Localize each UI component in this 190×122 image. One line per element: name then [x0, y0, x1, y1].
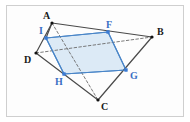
cross-section-polygon	[46, 32, 126, 74]
vertex-dot-C	[96, 98, 99, 101]
vertex-dot-B	[150, 35, 153, 38]
vertex-label-I: I	[39, 26, 43, 36]
vertex-dot-D	[34, 51, 37, 54]
vertex-label-G: G	[130, 71, 138, 81]
vertex-label-B: B	[157, 27, 164, 37]
vertex-dot-F	[106, 30, 109, 33]
vertex-label-A: A	[43, 11, 50, 21]
vertex-label-F: F	[106, 20, 112, 30]
edge-AI	[46, 23, 52, 38]
vertex-label-D: D	[24, 55, 31, 65]
vertex-dot-I	[44, 36, 47, 39]
vertex-label-C: C	[101, 102, 108, 112]
vertex-dot-A	[50, 21, 53, 24]
vertex-dot-G	[124, 68, 127, 71]
figure-frame: A B C D I F G H	[0, 0, 190, 122]
vertex-label-H: H	[55, 77, 63, 87]
